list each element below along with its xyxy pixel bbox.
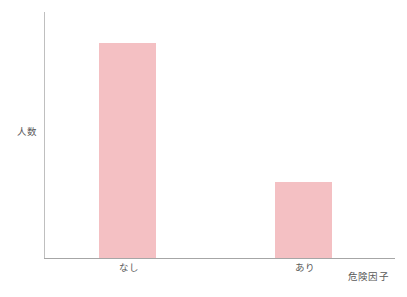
bar-ari (275, 182, 332, 258)
x-axis-label: 危険因子 (348, 271, 389, 283)
bar-nashi (99, 43, 156, 258)
y-axis-label: 人数 (12, 126, 42, 138)
x-tick-label-ari: あり (270, 262, 340, 274)
x-axis-line (44, 258, 395, 259)
plot-area (45, 12, 395, 258)
bar-chart: 人数 なし あり 危険因子 (0, 0, 407, 297)
x-tick-label-nashi: なし (94, 262, 164, 274)
